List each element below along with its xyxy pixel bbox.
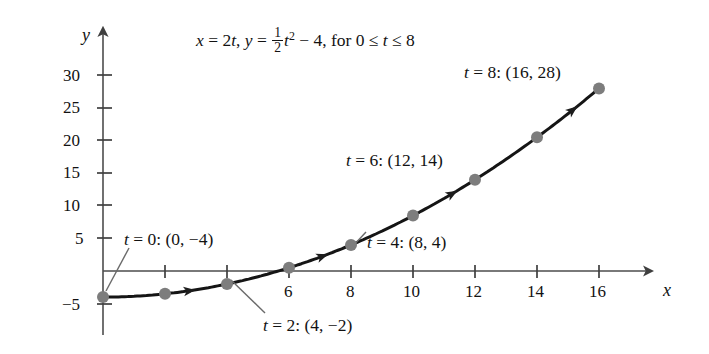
x-tick-label-6: 6: [284, 283, 293, 300]
annotation-t8: t = 8: (16, 28): [464, 64, 561, 82]
annotation-t0: t = 0: (0, −4): [124, 231, 213, 249]
data-point-t1: [159, 288, 171, 300]
data-point-t4: [345, 239, 357, 251]
x-axis-label: x: [663, 281, 671, 299]
y-tick-label-15: 15: [63, 164, 80, 181]
y-tick-label-25: 25: [63, 99, 80, 116]
parametric-curve-figure: x = 2t, y = 12t2 − 4, for 0 ≤ t ≤ 8 y x …: [0, 0, 709, 354]
data-point-t7: [531, 131, 543, 143]
data-point-t8: [593, 82, 605, 94]
direction-arrows: [183, 102, 580, 296]
annotation-t6-rest: = 6: (12, 14): [351, 150, 443, 170]
y-tick-label-10: 10: [63, 197, 80, 214]
data-point-t6: [469, 174, 481, 186]
y-axis-ticks: [97, 75, 112, 304]
data-point-t5: [407, 210, 419, 222]
annotation-t0-rest: = 0: (0, −4): [129, 229, 213, 249]
annotation-t6: t = 6: (12, 14): [346, 152, 443, 170]
leader-line-t2: [231, 280, 265, 313]
fraction-denominator: 2: [272, 41, 283, 55]
title-seg2: ,: [236, 30, 245, 50]
data-point-t2: [221, 278, 233, 290]
annotation-t2-rest: = 2: (4, −2): [268, 315, 352, 335]
y-axis-label: y: [82, 26, 90, 44]
data-point-t0: [97, 291, 109, 303]
title-seg3: =: [253, 30, 272, 50]
direction-arrow-icon: [445, 187, 460, 201]
title-seg5: ≤ 8: [388, 30, 415, 50]
title-seg1: = 2: [204, 30, 231, 50]
title-y-var: y: [245, 30, 253, 50]
equation-title: x = 2t, y = 12t2 − 4, for 0 ≤ t ≤ 8: [196, 26, 415, 55]
x-tick-label-10: 10: [403, 283, 420, 300]
y-tick-label-5: 5: [75, 230, 84, 247]
x-tick-label-14: 14: [527, 283, 544, 300]
x-tick-label-12: 12: [465, 283, 482, 300]
title-fraction-one-half: 12: [272, 26, 283, 55]
annotation-t2: t = 2: (4, −2): [263, 317, 352, 335]
leader-line-t0: [106, 248, 129, 291]
y-tick-label-minus-5: −5: [62, 296, 80, 313]
direction-arrow-icon: [315, 250, 330, 263]
annotation-t4-rest: = 4: (8, 4): [372, 232, 447, 252]
title-x-var: x: [196, 30, 204, 50]
x-tick-label-8: 8: [346, 283, 355, 300]
annotation-t8-rest: = 8: (16, 28): [469, 62, 561, 82]
annotation-t4: t = 4: (8, 4): [367, 234, 446, 252]
fraction-numerator: 1: [272, 26, 283, 41]
title-seg4: − 4, for 0 ≤: [295, 30, 383, 50]
y-tick-label-30: 30: [63, 67, 80, 84]
data-point-t3: [283, 262, 295, 274]
x-tick-label-16: 16: [589, 283, 606, 300]
y-tick-label-20: 20: [63, 132, 80, 149]
